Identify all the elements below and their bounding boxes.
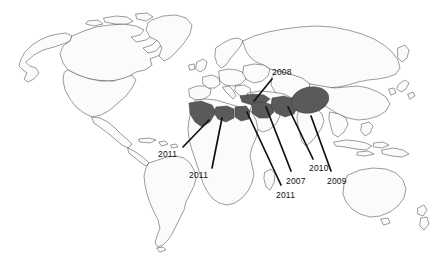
year-label-morocco-western-sahara: 2011 [158,150,177,159]
year-label-libya-algeria: 2011 [189,171,208,180]
world-map-graphic [0,0,448,259]
year-label-syria-iraq: 2007 [286,177,306,186]
year-label-iran: 2010 [309,164,329,173]
year-label-egypt: 2011 [276,191,295,200]
year-label-central-asia-tibet: 2009 [327,177,347,186]
year-label-turkey: 2008 [272,68,292,77]
highlight-syria-iraq [252,102,274,118]
map-figure: 2011 2011 2008 2011 2007 2010 2009 [0,0,448,259]
